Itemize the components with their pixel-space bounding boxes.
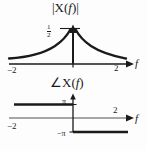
phase-y-axis [70,94,76,133]
magnitude-curve-left [9,29,71,58]
phase-x-axis-label: f [135,113,138,124]
phase-title-func: X( [62,75,76,90]
magnitude-xtick-2: 2 [114,64,119,73]
phase-title-angle-icon: ∠ [50,75,62,90]
magnitude-curve-right [76,29,127,58]
phase-xtick-minus2: −2 [7,122,17,131]
phase-xtick-2: 2 [113,106,118,115]
phase-x-axis [9,115,134,122]
magnitude-plot-canvas [0,0,147,78]
phase-ytick-pi-label: π [62,98,66,106]
phase-title-close: ) [79,75,83,90]
phase-plot-title: ∠X(f) [50,76,84,89]
magnitude-x-axis-label: f [135,58,138,69]
magnitude-xtick-minus2: −2 [7,66,17,75]
phase-plot-canvas [0,92,147,151]
spectrum-figure: |X(f)| 1 2 −2 2 f ∠X(f) [0,0,147,151]
phase-ytick-minus-pi-label: −π [57,130,66,138]
